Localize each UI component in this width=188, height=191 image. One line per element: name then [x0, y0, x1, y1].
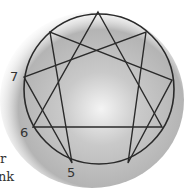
shadow-blob [0, 12, 184, 188]
point-label-7: 7 [10, 70, 18, 83]
text-fragment-nk: nk [0, 170, 14, 183]
enneagram-figure: 7 6 5 r nk [0, 0, 188, 191]
point-label-5: 5 [67, 166, 75, 179]
point-label-6: 6 [20, 126, 28, 139]
text-fragment-r: r [0, 152, 6, 165]
enneagram-svg [0, 0, 188, 191]
